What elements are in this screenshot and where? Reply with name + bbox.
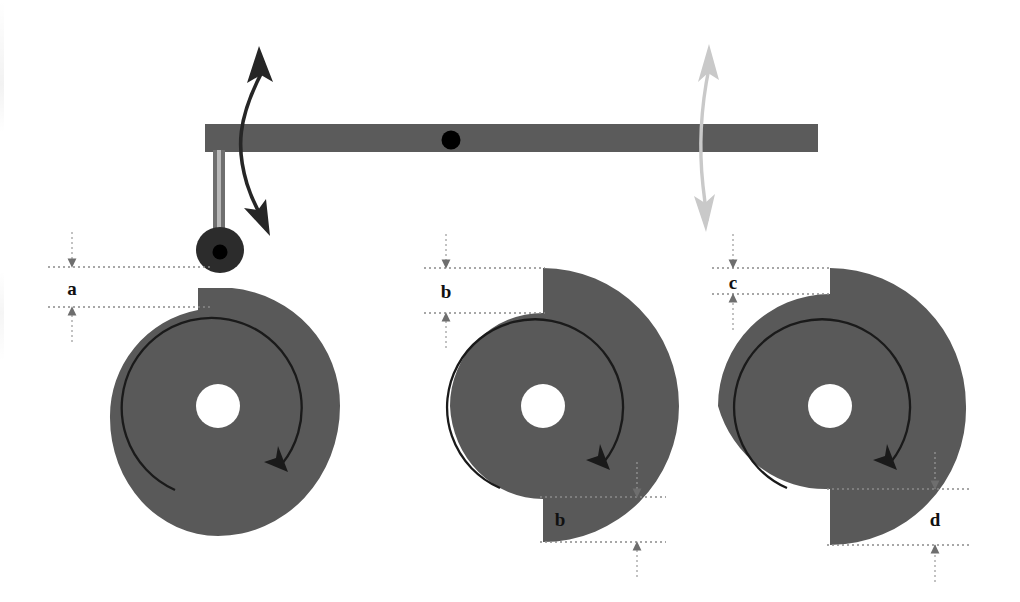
dimension-c-top-label: c [729,272,737,293]
roller-follower-group [196,150,244,273]
rocker-arm-group [205,124,818,152]
diagram-canvas: a b b [0,0,1020,602]
cam-mechanism-figure: a b b [0,0,1020,602]
cam-right-group [718,268,966,545]
cam-middle-group [447,268,679,542]
rocker-arm-beam [205,124,818,152]
cam-middle-bore [521,384,565,428]
cam-right-bore [808,384,852,428]
cam-left-bore [196,384,240,428]
cam-left-group [110,288,340,536]
dimension-b-top-label: b [441,281,452,302]
pivot-point [442,131,461,150]
dimension-d-bottom-label: d [930,509,941,530]
dimension-a-label: a [67,278,77,299]
follower-roller-hub [213,245,228,260]
dimension-b-bottom-label: b [555,509,566,530]
